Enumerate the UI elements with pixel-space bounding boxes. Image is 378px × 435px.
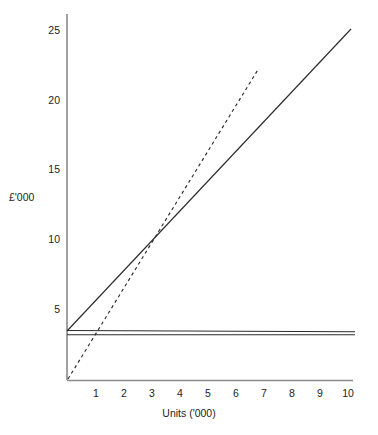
total-cost-line <box>67 29 351 331</box>
x-tick-label-2: 2 <box>114 388 134 399</box>
x-tick-label-3: 3 <box>142 388 162 399</box>
x-tick-label-6: 6 <box>226 388 246 399</box>
y-tick-label-25: 25 <box>34 25 60 36</box>
x-tick-label-5: 5 <box>198 388 218 399</box>
fixed-cost-line-upper <box>67 331 355 332</box>
x-tick-label-9: 9 <box>310 388 330 399</box>
y-tick-label-10: 10 <box>34 234 60 245</box>
y-tick-label-5: 5 <box>34 304 60 315</box>
x-tick-label-10: 10 <box>338 388 358 399</box>
x-axis-title: Units ('000) <box>0 408 378 419</box>
y-axis-title: £'000 <box>9 192 34 203</box>
break-even-chart: 25 20 15 10 5 1 2 3 4 5 6 7 8 9 10 £'000… <box>0 0 378 435</box>
y-tick-label-15: 15 <box>34 164 60 175</box>
y-tick-label-20: 20 <box>34 95 60 106</box>
x-tick-label-8: 8 <box>282 388 302 399</box>
x-tick-label-7: 7 <box>254 388 274 399</box>
chart-plot-area <box>0 0 378 435</box>
sales-revenue-line <box>68 68 259 379</box>
x-tick-label-1: 1 <box>86 388 106 399</box>
x-tick-label-4: 4 <box>170 388 190 399</box>
